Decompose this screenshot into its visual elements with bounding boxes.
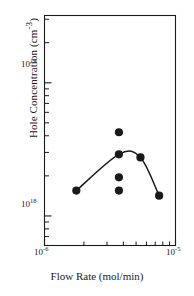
y-axis-ticks <box>45 19 52 236</box>
data-point-6 <box>155 192 163 200</box>
x-tick-label-1e-6: 10-6 <box>34 247 48 257</box>
y-axis-title-text: Hole Concentration (cm <box>27 30 39 139</box>
y-axis-title-suffix: ) <box>27 18 39 22</box>
data-point-3 <box>115 173 123 181</box>
data-point-5 <box>136 153 144 161</box>
data-points <box>72 128 163 200</box>
x-tick-label-1e-5: 10-5 <box>166 247 180 257</box>
chart-figure: Hole Concentration (cm-3) Flow Rate (mol… <box>0 0 194 296</box>
x-axis-ticks <box>45 239 176 246</box>
x-axis-title: Flow Rate (mol/min) <box>0 270 194 282</box>
x-axis-title-text: Flow Rate (mol/min) <box>51 270 144 282</box>
data-point-4 <box>115 187 123 195</box>
y-tick-label-1e18: 1018 <box>21 199 37 209</box>
axes-frame <box>45 16 176 246</box>
y-axis-title: Hole Concentration (cm-3) <box>25 0 41 158</box>
data-point-0 <box>72 187 80 195</box>
data-point-1 <box>115 128 123 136</box>
data-point-2 <box>115 150 123 158</box>
y-tick-label-1e19: 1019 <box>21 59 37 69</box>
axes-box <box>45 16 176 246</box>
y-axis-title-exponent: -3 <box>24 22 34 30</box>
